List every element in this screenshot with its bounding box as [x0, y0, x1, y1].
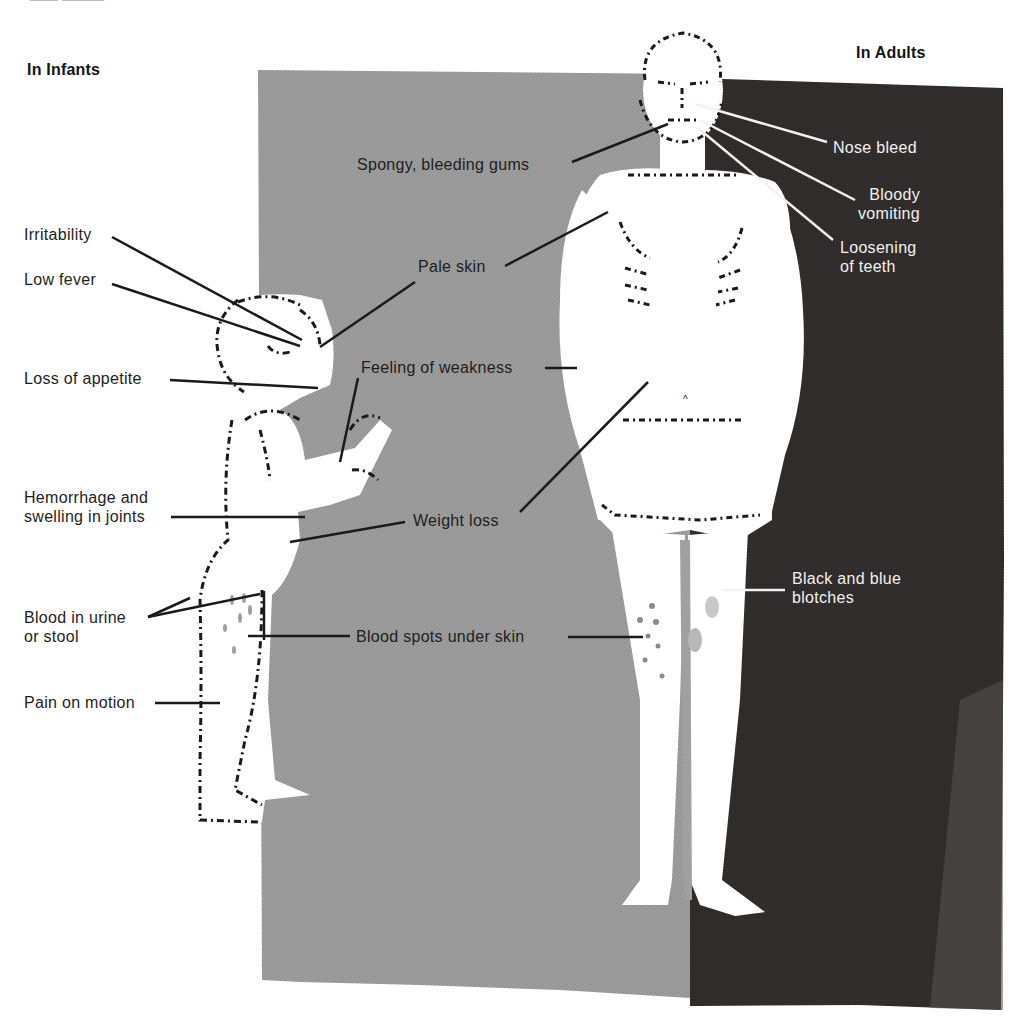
label-weight-loss: Weight loss	[413, 511, 499, 530]
label-nose-bleed: Nose bleed	[833, 138, 917, 157]
label-loosening-of-teeth: Loosening of teeth	[840, 238, 917, 276]
label-irritability: Irritability	[24, 225, 92, 244]
label-blood-spots-under-skin: Blood spots under skin	[356, 627, 524, 646]
label-spongy-bleeding-gums: Spongy, bleeding gums	[357, 155, 529, 174]
label-low-fever: Low fever	[24, 270, 96, 289]
label-pain-on-motion: Pain on motion	[24, 693, 135, 712]
label-hemorrhage-swelling-joints: Hemorrhage and swelling in joints	[24, 488, 148, 526]
label-black-and-blue-blotches: Black and blue blotches	[792, 569, 901, 607]
label-bloody-vomiting: Bloody vomiting	[858, 185, 920, 223]
label-pale-skin: Pale skin	[418, 257, 486, 276]
svg-text:^: ^	[683, 394, 688, 405]
heading-in-adults: In Adults	[856, 44, 926, 62]
label-blood-in-urine-stool: Blood in urine or stool	[24, 608, 126, 646]
cropped-caption-fragment: —— ———	[30, 0, 104, 7]
adult-bruise	[705, 596, 719, 618]
label-loss-of-appetite: Loss of appetite	[24, 369, 142, 388]
label-feeling-of-weakness: Feeling of weakness	[361, 358, 513, 377]
heading-in-infants: In Infants	[27, 61, 100, 79]
